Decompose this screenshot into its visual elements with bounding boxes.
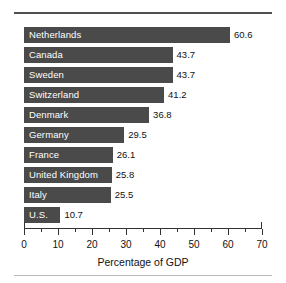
bar-value-label: 43.7 bbox=[177, 67, 196, 83]
x-tick-major bbox=[92, 229, 93, 235]
bar-value-label: 25.5 bbox=[115, 187, 134, 203]
x-tick-label: 0 bbox=[11, 239, 37, 251]
bar-row: United Kingdom25.8 bbox=[24, 166, 262, 186]
bar-chart-figure: Netherlands60.6Canada43.7Sweden43.7Switz… bbox=[0, 0, 286, 283]
x-tick-label: 30 bbox=[113, 239, 139, 251]
x-tick-minor bbox=[245, 229, 246, 232]
bar-category-label: U.S. bbox=[29, 207, 48, 223]
x-tick-minor bbox=[143, 229, 144, 232]
bar-row: Denmark36.8 bbox=[24, 106, 262, 126]
bar-value-label: 36.8 bbox=[153, 107, 172, 123]
bar-row: Netherlands60.6 bbox=[24, 26, 262, 46]
bar-row: Germany29.5 bbox=[24, 126, 262, 146]
bar-category-label: Netherlands bbox=[29, 27, 81, 43]
x-tick-major bbox=[24, 229, 25, 235]
x-tick-label: 20 bbox=[79, 239, 105, 251]
x-tick-label: 40 bbox=[147, 239, 173, 251]
bar-value-label: 43.7 bbox=[177, 47, 196, 63]
x-tick-major bbox=[194, 229, 195, 235]
x-tick-minor bbox=[211, 229, 212, 232]
bar-category-label: Switzerland bbox=[29, 87, 79, 103]
bar-category-label: Sweden bbox=[29, 67, 64, 83]
x-tick-label: 50 bbox=[181, 239, 207, 251]
x-tick-minor bbox=[109, 229, 110, 232]
x-axis-title: Percentage of GDP bbox=[0, 256, 286, 268]
x-tick-label: 60 bbox=[215, 239, 241, 251]
x-axis-cap-right bbox=[261, 222, 262, 229]
x-tick-major bbox=[228, 229, 229, 235]
bar-category-label: Denmark bbox=[29, 107, 68, 123]
bar-category-label: Canada bbox=[29, 47, 63, 63]
x-tick-label: 70 bbox=[249, 239, 275, 251]
bar-value-label: 26.1 bbox=[117, 147, 136, 163]
bar-value-label: 60.6 bbox=[234, 27, 253, 43]
bar-category-label: United Kingdom bbox=[29, 167, 98, 183]
bar-value-label: 41.2 bbox=[168, 87, 187, 103]
bar-value-label: 10.7 bbox=[64, 207, 83, 223]
bar-value-label: 25.8 bbox=[116, 167, 135, 183]
bar-row: Sweden43.7 bbox=[24, 66, 262, 86]
bar-row: U.S.10.7 bbox=[24, 206, 262, 226]
bottom-rule bbox=[14, 275, 272, 276]
top-rule bbox=[14, 12, 272, 14]
x-tick-minor bbox=[41, 229, 42, 232]
bar-row: Canada43.7 bbox=[24, 46, 262, 66]
x-tick-minor bbox=[75, 229, 76, 232]
bar-row: France26.1 bbox=[24, 146, 262, 166]
x-axis-cap-left bbox=[24, 222, 25, 229]
x-tick-label: 10 bbox=[45, 239, 71, 251]
bar-row: Switzerland41.2 bbox=[24, 86, 262, 106]
bar-category-label: France bbox=[29, 147, 59, 163]
plot-area: Netherlands60.6Canada43.7Sweden43.7Switz… bbox=[24, 26, 262, 228]
bar-row: Italy25.5 bbox=[24, 186, 262, 206]
bar-category-label: Germany bbox=[29, 127, 69, 143]
x-axis bbox=[24, 228, 262, 238]
x-tick-major bbox=[160, 229, 161, 235]
bar-value-label: 29.5 bbox=[128, 127, 147, 143]
x-tick-major bbox=[58, 229, 59, 235]
x-tick-major bbox=[262, 229, 263, 235]
x-tick-minor bbox=[177, 229, 178, 232]
x-tick-major bbox=[126, 229, 127, 235]
bar-category-label: Italy bbox=[29, 187, 47, 203]
